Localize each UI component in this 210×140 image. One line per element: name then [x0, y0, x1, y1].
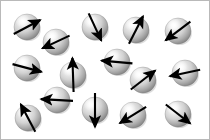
- spin-diagram-canvas: [0, 0, 210, 140]
- particles-layer: [14, 14, 199, 132]
- spin-diagram-figure: [0, 0, 210, 140]
- spin-arrow: [72, 58, 73, 92]
